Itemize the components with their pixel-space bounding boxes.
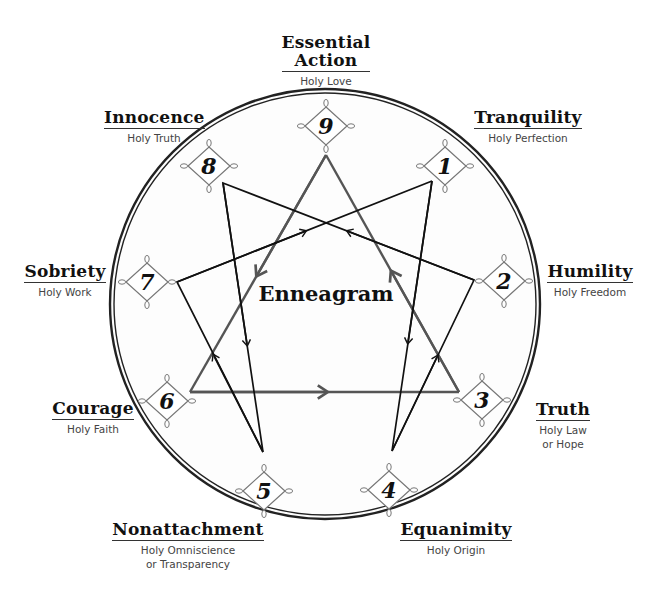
virtue-label: Sobriety	[24, 262, 105, 283]
virtue-line: Essential	[282, 33, 371, 51]
virtue-label: Innocence	[104, 108, 205, 129]
holy-idea-label: Holy Law or Hope	[518, 423, 608, 451]
point-number-3: 3	[467, 385, 497, 415]
holy-idea-label: Holy Faith	[48, 422, 138, 436]
virtue-label: Tranquility	[474, 108, 581, 129]
label-point-5: Nonattachment Holy Omniscience or Transp…	[108, 520, 268, 571]
holy-idea-label: Holy Origin	[396, 543, 516, 557]
label-point-4: Equanimity Holy Origin	[396, 520, 516, 557]
point-number-5: 5	[249, 476, 279, 506]
label-point-6: Courage Holy Faith	[48, 399, 138, 436]
point-number-2: 2	[489, 266, 519, 296]
virtue-label: Courage	[52, 399, 133, 420]
holy-idea-label: Holy Work	[22, 285, 108, 299]
virtue-label: Essential Action	[282, 33, 371, 72]
virtue-label: Truth	[536, 400, 590, 421]
holy-idea-label: Holy Truth	[104, 131, 204, 145]
holy-idea-line: or Transparency	[108, 557, 268, 571]
holy-idea-label: Holy Omniscience or Transparency	[108, 543, 268, 571]
point-number-1: 1	[430, 151, 460, 181]
virtue-line: Action	[282, 51, 371, 69]
holy-idea-line: or Hope	[518, 437, 608, 451]
holy-idea-label: Holy Freedom	[540, 285, 640, 299]
point-number-4: 4	[374, 475, 404, 505]
point-number-7: 7	[132, 267, 162, 297]
virtue-label: Humility	[547, 262, 632, 283]
label-point-2: Humility Holy Freedom	[540, 262, 640, 299]
holy-idea-label: Holy Love	[266, 74, 386, 88]
label-point-3: Truth Holy Law or Hope	[518, 400, 608, 451]
point-number-8: 8	[194, 151, 224, 181]
point-number-9: 9	[311, 111, 341, 141]
holy-idea-line: Holy Omniscience	[108, 543, 268, 557]
holy-idea-line: Holy Law	[518, 423, 608, 437]
point-number-6: 6	[152, 386, 182, 416]
label-point-9: Essential Action Holy Love	[266, 33, 386, 88]
virtue-label: Nonattachment	[112, 520, 263, 541]
virtue-label: Equanimity	[400, 520, 511, 541]
label-point-1: Tranquility Holy Perfection	[460, 108, 596, 145]
holy-idea-label: Holy Perfection	[460, 131, 596, 145]
label-point-8: Innocence Holy Truth	[104, 108, 204, 145]
label-point-7: Sobriety Holy Work	[22, 262, 108, 299]
